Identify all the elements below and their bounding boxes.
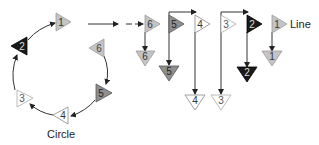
node-label: 1 xyxy=(274,19,280,30)
line-top-node-3: 3 xyxy=(221,15,236,33)
node-label: 6 xyxy=(96,43,102,54)
circle-node-5: 5 xyxy=(96,84,112,102)
node-label: 5 xyxy=(98,88,104,99)
line-top-node-4: 4 xyxy=(195,15,210,33)
node-label: 5 xyxy=(171,19,177,30)
line-bottom-node-2: 2 xyxy=(237,67,257,83)
line-arrangement: 6 5 4 3 2 1 Line 6 5 xyxy=(136,12,311,110)
line-bottom-node-3: 3 xyxy=(211,95,231,111)
line-bottom-node-1: 1 xyxy=(262,51,282,67)
node-label: 4 xyxy=(60,110,66,121)
node-label: 4 xyxy=(192,95,198,106)
line-top-node-6: 6 xyxy=(145,15,160,33)
circle-to-line-diagram: 1 2 3 4 5 6 Circle xyxy=(0,0,319,145)
line-top-node-5: 5 xyxy=(169,15,184,33)
circle-node-1: 1 xyxy=(56,13,71,31)
node-label: 5 xyxy=(166,66,172,77)
line-bottom-node-5: 5 xyxy=(159,66,179,82)
circle-node-4: 4 xyxy=(53,107,68,124)
node-label: 1 xyxy=(269,51,275,62)
node-label: 2 xyxy=(19,41,25,52)
node-label: 3 xyxy=(223,19,229,30)
circle-node-6: 6 xyxy=(89,39,104,57)
node-label: 3 xyxy=(19,93,25,104)
node-label: 1 xyxy=(58,17,64,28)
line-top-node-2: 2 xyxy=(247,15,262,33)
line-bottom-node-4: 4 xyxy=(185,95,205,111)
node-label: 2 xyxy=(249,19,255,30)
arc-5-to-4 xyxy=(71,100,95,116)
arc-2-to-1 xyxy=(28,23,55,40)
circle-label: Circle xyxy=(47,128,75,140)
line-bottom-node-6: 6 xyxy=(136,51,155,67)
arc-4-to-3 xyxy=(30,104,53,115)
circle-node-2: 2 xyxy=(11,37,27,55)
node-label: 2 xyxy=(244,67,250,78)
arc-3-to-2 xyxy=(13,55,17,90)
line-top-node-1: 1 xyxy=(272,15,287,33)
line-label: Line xyxy=(290,18,311,30)
node-label: 3 xyxy=(218,95,224,106)
arc-6-to-5 xyxy=(104,56,108,84)
node-label: 6 xyxy=(142,51,148,62)
node-label: 6 xyxy=(147,19,153,30)
circle-arrangement: 1 2 3 4 5 6 Circle xyxy=(11,13,112,140)
node-label: 4 xyxy=(197,19,203,30)
